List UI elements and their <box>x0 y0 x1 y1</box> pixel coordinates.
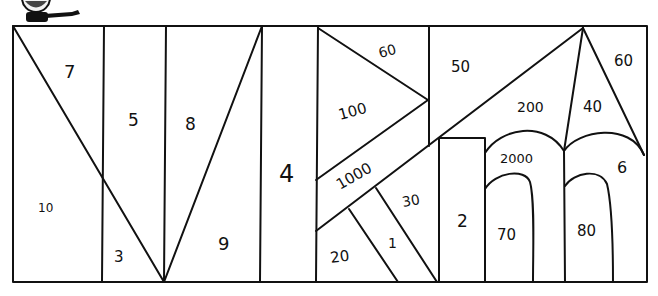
region-label: 8 <box>185 114 196 134</box>
region-label: 6 <box>617 158 627 177</box>
region-label: 100 <box>336 99 368 124</box>
region-label: 20 <box>329 246 350 266</box>
region-label: 3 <box>114 248 124 266</box>
region-label: 10 <box>38 201 53 215</box>
puzzle-canvas: 7 10 5 3 8 9 4 60 100 1000 30 1 20 50 20… <box>0 0 658 296</box>
mascot-icon <box>22 0 80 22</box>
region-label: 70 <box>497 226 516 244</box>
region-label: 9 <box>218 233 229 254</box>
region-label: 50 <box>451 58 470 76</box>
region-label: 60 <box>377 41 398 61</box>
region-label: 200 <box>517 99 544 115</box>
region-label: 5 <box>128 110 139 130</box>
region-label: 1 <box>388 235 397 251</box>
region-label: 60 <box>614 52 633 70</box>
region-label: 4 <box>279 160 294 188</box>
puzzle-drawing: 7 10 5 3 8 9 4 60 100 1000 30 1 20 50 20… <box>0 0 658 296</box>
outer-frame <box>13 26 647 282</box>
region-label: 80 <box>577 222 596 240</box>
region-label: 2 <box>457 211 468 231</box>
region-label: 2000 <box>500 151 533 166</box>
region-label: 40 <box>583 98 602 116</box>
region-label: 7 <box>64 61 75 82</box>
region-label: 30 <box>401 191 421 210</box>
